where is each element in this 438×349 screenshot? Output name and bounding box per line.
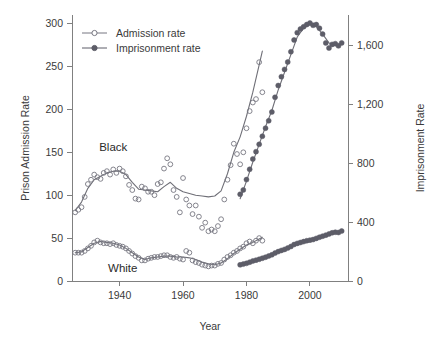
y-left-tick-label: 200 — [45, 103, 63, 115]
chart-container: 050100150200250300 04008001,2001,600 194… — [0, 0, 438, 349]
data-point — [276, 83, 281, 88]
y-left-tick-label: 250 — [45, 60, 63, 72]
y-left-tick-label: 100 — [45, 189, 63, 201]
data-point — [266, 118, 271, 123]
data-point — [285, 60, 290, 65]
data-point — [244, 177, 249, 182]
series-annotation-white: White — [108, 262, 137, 274]
y-right-tick-label: 1,200 — [357, 98, 383, 110]
legend-label-imprisonment-rate: Imprisonment rate — [116, 42, 201, 54]
data-point — [260, 134, 265, 139]
y-left-tick-label: 50 — [51, 232, 63, 244]
y-right-tick-label: 0 — [357, 275, 363, 287]
data-point — [323, 40, 328, 45]
y-left-tick-label: 300 — [45, 17, 63, 29]
data-point — [288, 49, 293, 54]
legend-marker-admission-icon — [92, 30, 97, 35]
data-point — [269, 109, 274, 114]
data-point — [279, 74, 284, 79]
x-axis-title: Year — [199, 320, 221, 332]
data-point — [263, 126, 268, 131]
data-point — [247, 167, 252, 172]
data-point — [238, 192, 243, 197]
data-point — [241, 187, 246, 192]
x-tick-label: 1960 — [171, 289, 195, 301]
y-right-tick-label: 800 — [357, 157, 375, 169]
y-axis-left-title: Prison Admission Rate — [19, 95, 31, 201]
data-point — [257, 142, 262, 147]
x-tick-label: 2000 — [298, 289, 322, 301]
data-point — [339, 40, 344, 45]
y-right-tick-label: 400 — [357, 216, 375, 228]
y-left-tick-label: 0 — [57, 275, 63, 287]
y-axis-right-title: Imprisonment Rate — [414, 103, 426, 192]
data-point — [282, 67, 287, 72]
data-point — [339, 229, 344, 234]
data-point — [254, 149, 259, 154]
y-left-tick-label: 150 — [45, 146, 63, 158]
y-right-tick-label: 1,600 — [357, 39, 383, 51]
data-point — [273, 95, 278, 100]
data-point — [292, 37, 297, 42]
chart-background — [0, 0, 438, 349]
prison-rate-scatter-chart: 050100150200250300 04008001,2001,600 194… — [0, 0, 438, 349]
x-tick-label: 1980 — [235, 289, 259, 301]
series-annotation-black: Black — [99, 141, 127, 153]
data-point — [317, 26, 322, 31]
data-point — [320, 32, 325, 37]
legend-marker-imprisonment-icon — [92, 45, 97, 50]
x-tick-label: 1940 — [108, 289, 132, 301]
legend-label-admission-rate: Admission rate — [116, 27, 186, 39]
data-point — [250, 157, 255, 162]
